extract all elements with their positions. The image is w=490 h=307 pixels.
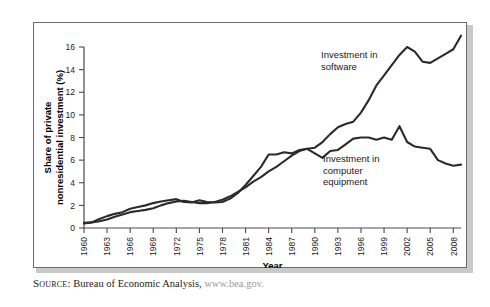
- software-annotation-line-1: Investment in: [321, 49, 378, 60]
- computer-equipment-annotation-line-2: computer: [323, 165, 363, 176]
- x-tick-label: 2002: [402, 237, 412, 256]
- x-axis-title: Year: [262, 260, 282, 268]
- y-tick-label: 12: [66, 87, 76, 97]
- software-annotation-line-2: software: [321, 61, 357, 72]
- y-tick-label: 2: [70, 201, 75, 211]
- y-axis-title-line-2: nonresidential investment (%): [54, 70, 65, 205]
- x-tick-label: 1978: [218, 237, 228, 256]
- x-tick-label: 2008: [449, 237, 459, 256]
- x-tick-label: 1969: [148, 237, 158, 256]
- x-tick-label: 1999: [379, 237, 389, 256]
- x-tick-label: 1996: [356, 237, 366, 256]
- y-tick-label: 14: [66, 65, 76, 75]
- x-tick-label: 1960: [79, 237, 89, 256]
- line-chart: 0246810121416196019631966196919721975197…: [33, 22, 467, 268]
- computer-equipment-annotation-line-1: Investment in: [323, 153, 380, 164]
- computer-equipment-annotation-line-3: equipment: [323, 176, 368, 187]
- x-tick-label: 1963: [102, 237, 112, 256]
- y-tick-label: 0: [70, 223, 75, 233]
- x-tick-label: 1984: [264, 237, 274, 256]
- y-axis-title-line-1: Share of private: [42, 102, 53, 174]
- x-tick-label: 1966: [125, 237, 135, 256]
- x-tick-label: 1993: [333, 237, 343, 256]
- chart-render-group: 0246810121416196019631966196919721975197…: [42, 36, 461, 268]
- source-note: Source: Bureau of Economic Analysis, www…: [33, 277, 473, 289]
- data-line-computer-equipment: [84, 126, 461, 223]
- x-tick-label: 2005: [425, 237, 435, 256]
- y-tick-label: 10: [66, 110, 76, 120]
- source-label: Source:: [33, 277, 71, 289]
- source-text: Bureau of Economic Analysis,: [73, 278, 201, 289]
- y-tick-label: 16: [66, 42, 76, 52]
- x-tick-label: 1990: [310, 237, 320, 256]
- data-line-software: [84, 36, 461, 223]
- x-tick-label: 1987: [287, 237, 297, 256]
- y-tick-label: 8: [70, 133, 75, 143]
- figure-root: 0246810121416196019631966196919721975197…: [0, 0, 490, 307]
- y-tick-label: 4: [70, 178, 75, 188]
- x-tick-label: 1975: [195, 237, 205, 256]
- x-tick-label: 1981: [241, 237, 251, 256]
- source-url: www.bea.gov.: [204, 278, 264, 289]
- x-tick-label: 1972: [172, 237, 182, 256]
- y-tick-label: 6: [70, 155, 75, 165]
